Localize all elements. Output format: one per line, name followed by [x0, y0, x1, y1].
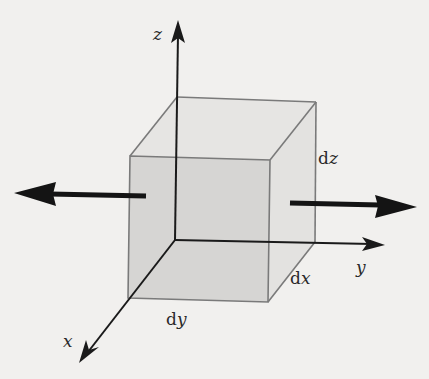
x-axis [79, 240, 175, 363]
dx-prefix: d [290, 268, 301, 288]
dy-label: dy [166, 309, 187, 329]
x-axis-label: x [63, 331, 73, 351]
left-force-arrowhead [14, 182, 56, 206]
right-force-arrowhead [375, 195, 417, 218]
z-axis-label: z [152, 24, 163, 44]
diagram-canvas: z y x dz dx dy [0, 0, 429, 379]
dx-label: dx [290, 268, 311, 288]
cube-edge-back-right-vertical [315, 102, 316, 242]
dx-var: x [301, 268, 311, 288]
x-axis-arrowhead [79, 340, 99, 363]
dz-var: z [328, 148, 339, 168]
dz-prefix: d [318, 148, 329, 168]
y-axis-label: y [355, 257, 366, 277]
dy-prefix: d [166, 309, 177, 329]
left-force-arrow [14, 182, 146, 206]
dz-label: dz [318, 148, 339, 168]
dy-var: y [176, 309, 187, 329]
cube-front-face [128, 156, 270, 302]
